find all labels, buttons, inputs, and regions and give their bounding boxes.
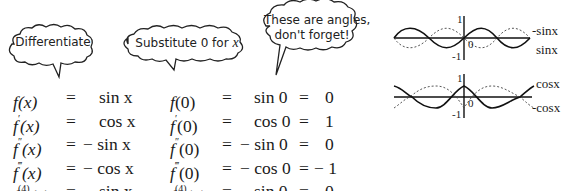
equals-sign: =: [299, 133, 309, 157]
equals-sign: =: [299, 86, 309, 110]
derivative-order: ‴: [175, 160, 179, 171]
bubble-text-line-1: These are angles,: [264, 13, 360, 28]
substituted-expression: sin 0: [254, 180, 288, 191]
equals-sign: =: [66, 110, 76, 134]
derivative-order: ′: [18, 113, 20, 124]
y-tick-bottom: -1: [452, 108, 461, 120]
values-at-zero-list: f(0) = sin 0 = 0 f′(0) = cos 0 = 1 f″(0)…: [170, 86, 340, 191]
derivative-result: cos x: [99, 110, 135, 134]
evaluated-value: 0: [325, 180, 334, 191]
equals-sign: =: [66, 157, 76, 181]
derivative-result: sin x: [99, 86, 133, 110]
bubble-text: Substitute 0 for x: [126, 35, 248, 51]
bubble-text: Differentiate: [12, 35, 94, 50]
y-tick-top: 1: [457, 13, 463, 25]
value-row: f′(0) = cos 0 = 1: [170, 110, 340, 134]
solid-curve-label: cosx: [536, 76, 560, 92]
derivative-result: sin x: [99, 180, 133, 191]
substituted-expression: cos 0: [254, 110, 290, 134]
cosine-graph: 1 -1 0 cosx -cosx: [390, 68, 567, 118]
value-row: f(4)(0) = sin 0 = 0: [170, 180, 340, 191]
equals-sign: =: [299, 157, 309, 181]
equals-sign: =: [66, 133, 76, 157]
equals-sign: =: [299, 180, 309, 191]
speech-bubble-substitute: Substitute 0 for x: [122, 24, 252, 68]
derivative-order: ″: [175, 136, 179, 147]
equals-sign: =: [222, 86, 232, 110]
substituted-expression: − sin 0: [240, 133, 288, 157]
y-tick-top: 1: [457, 72, 463, 84]
equals-sign: =: [222, 157, 232, 181]
function-argument: (0): [187, 186, 207, 191]
value-row: f(0) = sin 0 = 0: [170, 86, 340, 110]
substituted-expression: − cos 0: [240, 157, 291, 181]
evaluated-value: 1: [325, 110, 334, 134]
derivatives-list: f(x) = sin x f′(x) = cos x f″(x) = − sin…: [13, 86, 153, 191]
evaluated-value: 0: [325, 133, 334, 157]
sine-graph: 1 -1 0 -sinx sinx: [390, 12, 567, 62]
derivative-order: ‴: [18, 160, 22, 171]
equals-sign: =: [222, 110, 232, 134]
y-tick-bottom: -1: [452, 50, 461, 62]
bubble-text-line-2: don't forget!: [264, 28, 360, 43]
derivative-row: f(x) = sin x: [13, 86, 153, 110]
equals-sign: =: [66, 180, 76, 191]
evaluated-value: 0: [325, 86, 334, 110]
origin-label: 0: [468, 97, 474, 109]
derivative-result: − cos x: [83, 157, 134, 181]
speech-bubble-differentiate: Differentiate: [8, 24, 98, 68]
derivative-order: (4): [18, 183, 30, 191]
value-row: f‴(0) = − cos 0 = − 1: [170, 157, 340, 181]
derivative-order: ″: [18, 136, 22, 147]
speech-bubble-angles: These are angles, don't forget!: [258, 2, 368, 82]
dashed-curve-label: -cosx: [532, 100, 560, 116]
equals-sign: =: [299, 110, 309, 134]
solid-curve-label: sinx: [536, 42, 558, 58]
derivative-row: f(4)(x) = sin x: [13, 180, 153, 191]
bubble-text-prefix: Substitute 0 for: [135, 36, 232, 50]
derivative-row: f″(x) = − sin x: [13, 133, 153, 157]
equals-sign: =: [222, 180, 232, 191]
derivative-result: − sin x: [83, 133, 131, 157]
substituted-expression: sin 0: [254, 86, 288, 110]
value-row: f″(0) = − sin 0 = 0: [170, 133, 340, 157]
equals-sign: =: [222, 133, 232, 157]
derivative-order: ′: [175, 113, 177, 124]
equals-sign: =: [66, 86, 76, 110]
function-argument: (x): [30, 186, 49, 191]
derivative-order: (4): [175, 183, 187, 191]
evaluated-value: − 1: [314, 157, 337, 181]
dashed-curve-label: -sinx: [532, 23, 558, 39]
origin-label: 0: [468, 38, 474, 50]
bubble-text-variable: x: [232, 35, 238, 50]
derivative-row: f‴(x) = − cos x: [13, 157, 153, 181]
derivative-row: f′(x) = cos x: [13, 110, 153, 134]
